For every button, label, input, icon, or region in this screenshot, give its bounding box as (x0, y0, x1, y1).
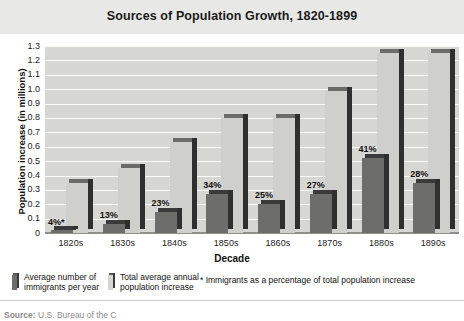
y-axis-tick: 0.6 (8, 142, 40, 151)
source-line: Source: U.S. Bureau of the C (4, 310, 116, 320)
bar-percentage-label: 23% (152, 198, 170, 208)
bar-percentage-label: 4%* (48, 217, 65, 227)
y-axis-tick: 0.1 (8, 214, 40, 223)
bar-percentage-label: 27% (307, 180, 325, 190)
x-axis-title: Decade (0, 253, 464, 264)
bar-percentage-label: 41% (359, 144, 377, 154)
legend-swatch-immigrants (12, 273, 19, 290)
bar-percentage-label: 13% (100, 210, 118, 220)
source-text: U.S. Bureau of the C (38, 310, 116, 320)
bar-immigrants-1880s (362, 158, 384, 233)
bar-immigrants-1890s (413, 183, 435, 233)
source-label: Source: (4, 310, 36, 320)
y-axis-tick: 0.3 (8, 185, 40, 194)
y-axis-tick: 0.8 (8, 113, 40, 122)
y-axis-tick: 0.5 (8, 157, 40, 166)
bar-percentage-label: 25% (255, 190, 273, 200)
y-axis-tick: 1.3 (8, 42, 40, 51)
title-band: Sources of Population Growth, 1820-1899 (0, 0, 464, 34)
bar-immigrants-1820s (51, 230, 73, 233)
bar-immigrants-1860s (258, 204, 280, 233)
legend-swatch-population (108, 273, 115, 290)
footnote: * Immigrants as a percentage of total po… (200, 275, 415, 285)
gridline (45, 46, 459, 47)
y-axis-tick: 0.4 (8, 171, 40, 180)
y-axis-tick: 1.2 (8, 56, 40, 65)
legend-label-population: Total average annual population increase (120, 272, 199, 292)
page-title: Sources of Population Growth, 1820-1899 (0, 9, 464, 23)
bar-percentage-label: 28% (410, 169, 428, 179)
y-axis-tick: 0.7 (8, 128, 40, 137)
bar-immigrants-1870s (310, 194, 332, 233)
bar-immigrants-1840s (155, 212, 177, 233)
x-axis-tick: 1890s (403, 238, 463, 248)
y-axis-tick: 1.1 (8, 70, 40, 79)
divider (0, 300, 464, 301)
bar-percentage-label: 34% (203, 180, 221, 190)
bar-immigrants-1830s (103, 224, 125, 233)
y-axis-tick: 0.2 (8, 200, 40, 209)
y-axis-tick: 1.0 (8, 85, 40, 94)
legend-label-immigrants: Average number of immigrants per year (24, 272, 99, 292)
y-axis-tick: 0.9 (8, 99, 40, 108)
chart-page: Sources of Population Growth, 1820-1899 … (0, 0, 464, 321)
y-axis-tick: 0 (8, 229, 40, 238)
bar-immigrants-1850s (206, 194, 228, 233)
